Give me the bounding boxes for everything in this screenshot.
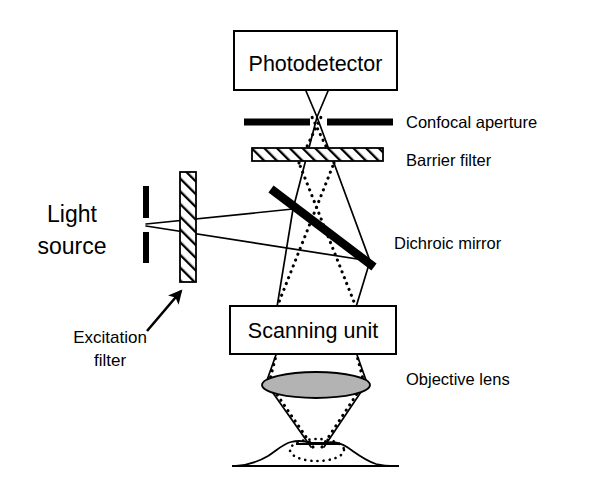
photodetector[interactable]: Photodetector [234, 31, 397, 90]
barrier-filter-label: Barrier filter [406, 151, 492, 169]
diagram-canvas: Photodetector Confocal aperture Barrier … [0, 0, 593, 489]
barrier-filter[interactable] [252, 148, 383, 161]
excitation-filter[interactable] [180, 172, 196, 282]
excitation-filter-label-line1: Excitation [73, 328, 147, 347]
objective-lens-label: Objective lens [406, 370, 510, 388]
confocal-aperture-label: Confocal aperture [406, 113, 537, 131]
confocal-microscope-diagram: Photodetector Confocal aperture Barrier … [0, 0, 593, 489]
excitation-filter-label-line2: filter [94, 351, 126, 370]
dichroic-mirror-label: Dichroic mirror [394, 234, 502, 252]
light-source-label-line2: source [37, 233, 106, 259]
photodetector-label: Photodetector [249, 52, 383, 76]
specimen [232, 439, 399, 466]
excitation-filter-pointer-arrow [147, 291, 181, 331]
scanning-unit[interactable]: Scanning unit [230, 306, 396, 354]
scanning-unit-label: Scanning unit [248, 319, 378, 343]
light-source-label-line1: Light [47, 201, 97, 227]
objective-lens[interactable] [262, 372, 370, 398]
